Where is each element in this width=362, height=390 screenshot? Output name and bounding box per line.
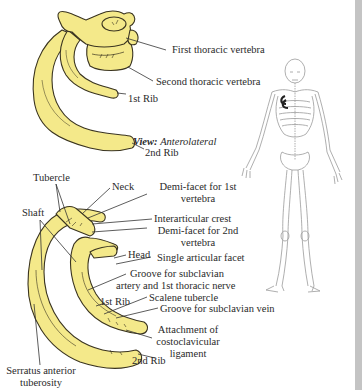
label-demi-facet-2-line1: Demi-facet for 2nd [148, 225, 248, 237]
label-tubercle: Tubercle [33, 172, 70, 184]
label-serratus-line2: tuberosity [0, 377, 82, 389]
side-scrollbar-strip [355, 0, 362, 390]
label-demi-facet-1-line2: vertebra [148, 193, 248, 205]
label-groove-artery-line1: Groove for subclavian [130, 268, 224, 280]
label-lower-second-rib: 2nd Rib [132, 355, 166, 367]
label-head: Head [128, 249, 150, 261]
label-groove-vein: Groove for subclavian vein [160, 303, 275, 315]
upper-rib-vertebra-illustration [33, 11, 138, 151]
anatomy-figure: First thoracic vertebra Second thoracic … [0, 0, 362, 390]
label-groove-artery-line2: artery and 1st thoracic nerve [116, 280, 236, 292]
label-demi-facet-1-line1: Demi-facet for 1st [148, 181, 248, 193]
label-upper-second-rib: 2nd Rib [145, 147, 179, 159]
label-shaft: Shaft [22, 207, 44, 219]
label-second-thoracic-vertebra: Second thoracic vertebra [156, 76, 260, 88]
label-serratus-line1: Serratus anterior [0, 365, 82, 377]
label-demi-facet-2-line2: vertebra [148, 237, 248, 249]
label-neck: Neck [112, 181, 134, 193]
label-interarticular-crest: Interarticular crest [154, 213, 231, 225]
label-attachment-line2: costoclavicular [148, 336, 228, 348]
view-value: Anterolateral [160, 136, 216, 147]
label-single-articular-facet: Single articular facet [157, 252, 244, 264]
view-label: View: [133, 136, 158, 147]
skeleton-highlight-ribs [281, 96, 288, 108]
skeleton-figure [242, 59, 342, 292]
label-lower-first-rib: 1st Rib [100, 296, 130, 308]
label-upper-first-rib: 1st Rib [128, 93, 158, 105]
label-first-thoracic-vertebra: First thoracic vertebra [172, 44, 265, 56]
view-caption: View: Anterolateral [133, 136, 216, 147]
label-attachment-line1: Attachment of [148, 324, 228, 336]
